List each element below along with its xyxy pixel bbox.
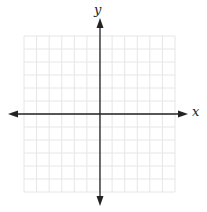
axes: [8, 18, 188, 206]
arrow-up-icon: [97, 18, 104, 28]
y-axis-label: y: [94, 2, 101, 17]
coordinate-plane: [0, 0, 207, 212]
x-axis-label: x: [192, 104, 199, 119]
arrow-down-icon: [97, 196, 104, 206]
arrow-left-icon: [8, 111, 18, 118]
arrow-right-icon: [178, 111, 188, 118]
